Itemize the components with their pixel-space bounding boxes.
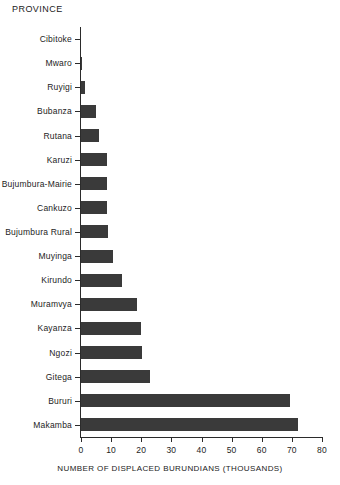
y-axis-title: PROVINCE	[12, 4, 63, 14]
bar	[81, 274, 122, 287]
y-axis-tick	[75, 87, 80, 88]
category-label: Kayanza	[38, 323, 72, 333]
category-label: Ruyigi	[47, 82, 72, 92]
bar	[81, 346, 142, 359]
bar	[81, 418, 298, 431]
x-axis-tick	[111, 437, 112, 442]
category-label: Cankuzo	[37, 203, 72, 213]
y-axis-tick	[75, 39, 80, 40]
category-label: Bururi	[48, 396, 72, 406]
y-axis-tick	[75, 232, 80, 233]
category-label: Gitega	[46, 372, 72, 382]
bar	[81, 298, 137, 311]
y-axis-tick	[75, 111, 80, 112]
bar	[81, 322, 141, 335]
bar-row: Ruyigi	[81, 75, 322, 99]
bar	[81, 129, 99, 142]
category-label: Kirundo	[41, 275, 72, 285]
x-axis-tick-label: 60	[257, 445, 267, 455]
x-axis-tick	[262, 437, 263, 442]
category-label: Ngozi	[49, 348, 72, 358]
category-label: Cibitoke	[40, 34, 72, 44]
bar-row: Bubanza	[81, 99, 322, 123]
y-axis-tick	[75, 304, 80, 305]
bar-row: Gitega	[81, 365, 322, 389]
x-axis-title: NUMBER OF DISPLACED BURUNDIANS (THOUSAND…	[0, 464, 340, 473]
y-axis-tick	[75, 401, 80, 402]
bar	[81, 81, 85, 94]
bar	[81, 225, 108, 238]
bar-row: Muramvya	[81, 292, 322, 316]
y-axis-tick	[75, 353, 80, 354]
x-axis-tick-label: 30	[166, 445, 176, 455]
x-axis-tick-label: 50	[227, 445, 237, 455]
bar-row: Bururi	[81, 389, 322, 413]
y-axis-tick	[75, 328, 80, 329]
y-axis-tick	[75, 256, 80, 257]
y-axis-tick	[75, 425, 80, 426]
category-label: Muramvya	[31, 299, 72, 309]
y-axis-tick	[75, 160, 80, 161]
x-axis-tick	[141, 437, 142, 442]
category-label: Karuzi	[47, 155, 72, 165]
category-label: Bujumbura-Mairie	[2, 179, 72, 189]
x-axis-tick	[322, 437, 323, 442]
y-axis-tick	[75, 208, 80, 209]
x-axis-tick	[81, 437, 82, 442]
x-axis-tick	[232, 437, 233, 442]
bar-row: Karuzi	[81, 148, 322, 172]
x-axis-tick-label: 10	[106, 445, 116, 455]
category-label: Mwaro	[45, 58, 72, 68]
x-axis-tick	[292, 437, 293, 442]
bar-row: Kayanza	[81, 316, 322, 340]
y-axis-tick	[75, 184, 80, 185]
bar-row: Cankuzo	[81, 196, 322, 220]
x-axis-tick	[171, 437, 172, 442]
category-label: Muyinga	[38, 251, 72, 261]
bar	[81, 153, 107, 166]
bar	[81, 394, 290, 407]
bar	[81, 105, 96, 118]
bar-row: Muyinga	[81, 244, 322, 268]
bar-row: Ngozi	[81, 341, 322, 365]
category-label: Makamba	[33, 420, 72, 430]
plot-area: CibitokeMwaroRuyigiBubanzaRutanaKaruziBu…	[81, 27, 322, 437]
x-axis-tick-label: 80	[317, 445, 327, 455]
category-label: Bujumbura Rural	[5, 227, 72, 237]
x-axis-tick-label: 70	[287, 445, 297, 455]
x-axis-tick	[202, 437, 203, 442]
y-axis-tick	[75, 377, 80, 378]
y-axis-tick	[75, 136, 80, 137]
bar	[81, 370, 150, 383]
bar-row: Rutana	[81, 123, 322, 147]
y-axis-tick	[75, 280, 80, 281]
bar	[81, 250, 113, 263]
x-axis-tick-label: 0	[79, 445, 84, 455]
bar	[81, 201, 107, 214]
category-label: Bubanza	[37, 106, 72, 116]
bar-row: Kirundo	[81, 268, 322, 292]
bar-row: Cibitoke	[81, 27, 322, 51]
bar	[81, 177, 107, 190]
bar-row: Bujumbura-Mairie	[81, 172, 322, 196]
bar-chart: PROVINCE CibitokeMwaroRuyigiBubanzaRutan…	[0, 0, 340, 485]
y-axis-tick	[75, 63, 80, 64]
bar	[81, 57, 82, 70]
category-label: Rutana	[43, 131, 72, 141]
x-axis-tick-label: 20	[136, 445, 146, 455]
bar-row: Mwaro	[81, 51, 322, 75]
x-axis-tick-label: 40	[197, 445, 207, 455]
bar-row: Bujumbura Rural	[81, 220, 322, 244]
bar-row: Makamba	[81, 413, 322, 437]
